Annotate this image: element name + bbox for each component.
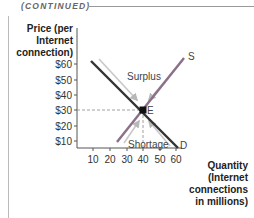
x-tick-label: 30	[121, 154, 133, 165]
surplus-label: Surplus	[127, 71, 161, 82]
y-tick-label: $10	[55, 136, 72, 147]
y-tick-label: $60	[55, 59, 72, 70]
y-tick-label: $50	[55, 75, 72, 86]
y-tick-label: $20	[55, 121, 72, 132]
x-tick-label: 40	[137, 154, 149, 165]
x-tick-label: 20	[104, 154, 116, 165]
shortage-label: Shortage	[128, 139, 169, 150]
equilibrium-point	[140, 107, 147, 114]
x-axis-ticks: 10 20 30 40 50 60	[87, 148, 182, 165]
y-tick-label: $40	[55, 90, 72, 101]
x-tick-label: 10	[87, 154, 99, 165]
x-tick-label: 60	[170, 154, 182, 165]
x-tick-label: 50	[154, 154, 166, 165]
supply-demand-chart: $60 $50 $40 $30 $20 $10 10 20 30 40 50 6…	[0, 0, 254, 218]
demand-curve-label: D	[180, 140, 187, 151]
y-tick-label: $30	[55, 105, 72, 116]
equilibrium-label: E	[147, 105, 154, 116]
supply-curve-label: S	[188, 51, 195, 62]
y-axis-ticks: $60 $50 $40 $30 $20 $10	[55, 59, 77, 147]
